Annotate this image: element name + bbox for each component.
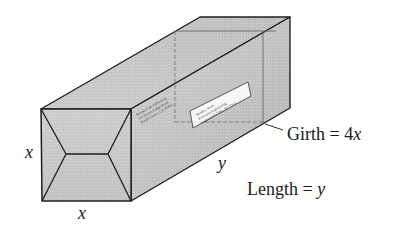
girth-word: Girth [287, 124, 325, 144]
length-word: Length [247, 179, 298, 199]
box-diagram: Brooks/Cole Publishing 511 Forest Lodge … [0, 0, 401, 231]
girth-equals: = 4 [325, 124, 353, 144]
side-length-label: y [216, 153, 226, 173]
figure-canvas: Brooks/Cole Publishing 511 Forest Lodge … [0, 0, 401, 231]
length-variable: y [315, 179, 325, 199]
girth-equation: Girth = 4x [287, 124, 361, 144]
length-equation: Length = y [247, 179, 325, 199]
front-width-label: x [77, 203, 86, 223]
girth-variable: x [352, 124, 361, 144]
front-face [41, 109, 131, 201]
length-equals: = [298, 179, 317, 199]
girth-leader-line [265, 124, 283, 130]
front-height-label: x [24, 142, 33, 162]
